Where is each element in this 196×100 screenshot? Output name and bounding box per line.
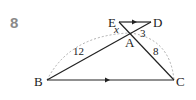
length-ea: x <box>113 23 119 35</box>
length-ba: 12 <box>73 45 84 57</box>
geometry-diagram: 8 E D A B C 12 8 3 x <box>0 0 196 100</box>
length-ad: 3 <box>140 27 146 39</box>
length-ac: 8 <box>153 45 159 57</box>
parallel-arrow-bc <box>105 78 110 83</box>
label-d: D <box>153 15 162 30</box>
label-b: B <box>34 74 43 89</box>
parallel-arrow-ed <box>132 20 137 25</box>
segment-bd <box>47 22 151 80</box>
label-c: C <box>176 74 185 89</box>
problem-number: 8 <box>10 14 18 31</box>
label-a: A <box>125 35 135 50</box>
segment-ec <box>119 22 174 80</box>
